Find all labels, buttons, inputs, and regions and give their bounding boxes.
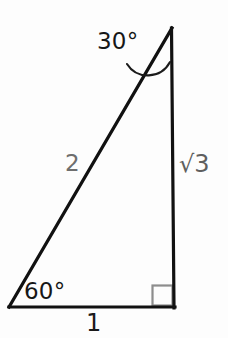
triangle-side-hypotenuse: [9, 28, 172, 307]
angle-label-bottom-left: 60°: [24, 280, 65, 303]
angle-label-top: 30°: [97, 30, 138, 53]
side-label-base: 1: [86, 311, 101, 335]
triangle-figure: 30° 60° 2 √3 1: [0, 0, 228, 338]
right-angle-marker: [153, 286, 173, 306]
side-label-hypotenuse: 2: [65, 152, 80, 175]
triangle-side-vertical: [172, 28, 175, 308]
side-label-vertical: √3: [179, 152, 210, 176]
